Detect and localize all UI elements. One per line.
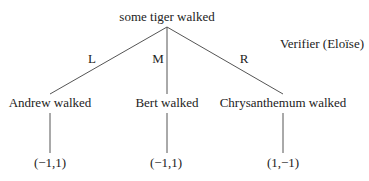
move-label-right: R [240, 51, 249, 66]
move-label-middle: M [152, 51, 164, 66]
edge-left [50, 27, 167, 94]
payoff-left: (−1,1) [34, 155, 66, 170]
move-label-left: L [88, 51, 96, 66]
payoff-middle: (−1,1) [150, 155, 182, 170]
root-node-label: some tiger walked [119, 9, 215, 24]
child-node-left: Andrew walked [9, 95, 92, 110]
edge-right [167, 27, 283, 94]
game-tree-diagram: some tiger walked Verifier (Eloïse) L M … [0, 0, 369, 181]
child-node-right: Chrysanthemum walked [220, 95, 347, 110]
payoff-right: (1,−1) [267, 155, 299, 170]
child-node-middle: Bert walked [135, 95, 199, 110]
player-label: Verifier (Eloïse) [280, 36, 364, 51]
